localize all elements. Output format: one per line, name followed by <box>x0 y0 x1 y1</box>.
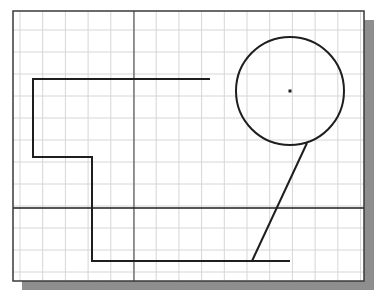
circle-center-marker <box>289 90 292 93</box>
drawing-area[interactable] <box>0 0 376 297</box>
cad-drawing-canvas[interactable] <box>0 0 376 297</box>
